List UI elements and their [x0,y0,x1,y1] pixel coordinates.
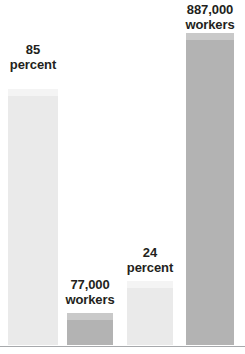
bar-group-4 [186,33,234,345]
bar-top-face-2 [67,313,113,320]
bar-group-1 [8,89,58,345]
plot-area: 85 percent 77,000 workers 24 percent [0,0,245,354]
bar-label-1: 85 percent [10,42,56,72]
bar-top-face-3 [127,281,173,288]
bar-front-face-4 [186,40,234,345]
bar-chart: 85 percent 77,000 workers 24 percent [0,0,245,354]
bar-front-face-1 [8,96,58,345]
bar-front-face-2 [67,320,113,345]
bar-top-face-1 [8,89,58,96]
bar-label-1-line2: percent [10,57,56,72]
bar-label-4-line1: 887,000 [187,2,233,17]
bar-group-2 [67,313,113,345]
bar-label-4-line2: workers [185,17,234,32]
bar-label-4: 887,000 workers [185,2,234,32]
bar-label-3-line1: 24 [143,245,157,260]
bar-label-1-line1: 85 [26,42,40,57]
bar-label-2: 77,000 workers [65,277,114,307]
bar-group-3 [127,281,173,345]
bar-top-face-4 [186,33,234,40]
bar-label-3-line2: percent [127,260,173,275]
bar-front-face-3 [127,288,173,345]
bar-label-2-line2: workers [65,292,114,307]
bar-label-2-line1: 77,000 [70,277,109,292]
baseline-axis [0,346,245,347]
bar-label-3: 24 percent [127,245,173,275]
